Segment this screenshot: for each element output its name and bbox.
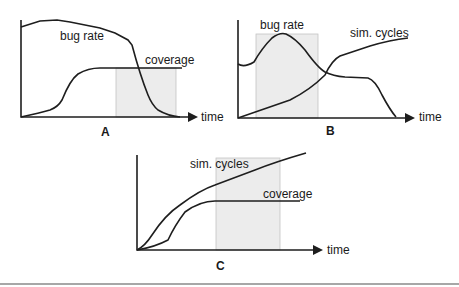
diagram-canvas: bug rate coverage time A bug rate sim. c…: [0, 0, 459, 287]
panel-label-a: A: [101, 125, 110, 139]
bug-rate-label-a: bug rate: [60, 29, 104, 43]
panel-a: bug rate coverage time A: [21, 20, 224, 139]
panel-label-b: B: [326, 124, 335, 138]
sim-cycles-label-b: sim. cycles: [350, 26, 409, 40]
coverage-label-a: coverage: [145, 53, 195, 67]
time-arrow-icon: [188, 112, 198, 122]
sim-cycles-label-c: sim. cycles: [190, 157, 249, 171]
panel-label-c: C: [216, 259, 225, 273]
time-label-a: time: [201, 110, 224, 124]
time-arrow-icon: [405, 113, 415, 123]
time-arrow-icon: [313, 245, 323, 255]
time-label-b: time: [419, 110, 442, 124]
time-label-c: time: [327, 243, 350, 257]
bug-rate-label-b: bug rate: [260, 18, 304, 32]
shaded-region-a: [116, 68, 176, 117]
panel-c: sim. cycles coverage time C: [137, 153, 350, 273]
coverage-label-c: coverage: [263, 187, 313, 201]
panel-b: bug rate sim. cycles time B: [238, 18, 442, 138]
